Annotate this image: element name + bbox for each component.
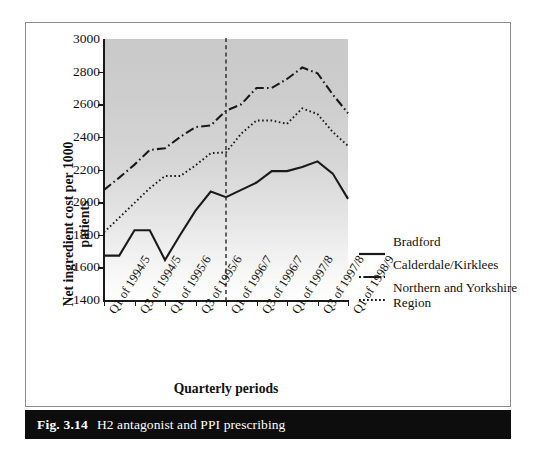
figure-caption-text: H2 antagonist and PPI prescribing — [97, 417, 286, 433]
y-tick-mark — [98, 104, 104, 105]
legend-label: Calderdale/Kirklees — [393, 257, 531, 272]
legend-label: Northern and Yorkshire Region — [393, 280, 531, 310]
y-tick-label: 3000 — [54, 32, 100, 46]
legend-item: Calderdale/Kirklees — [359, 257, 531, 274]
figure-number: Fig. 3.14 — [37, 417, 88, 433]
legend-label: Bradford — [393, 234, 531, 249]
y-tick-mark — [98, 235, 104, 236]
y-tick-mark — [98, 267, 104, 268]
y-tick-mark — [98, 170, 104, 171]
figure-root: 140016001800200022002400260028003000 Net… — [0, 0, 537, 457]
legend-swatch-dotted-icon — [359, 288, 385, 291]
legend-swatch-solid-icon — [359, 242, 385, 245]
y-axis-title-wrapper: Net ingredient cost per 1000 patients — [38, 58, 58, 278]
y-tick-mark — [98, 137, 104, 138]
y-tick-label: 2800 — [54, 65, 100, 79]
chart-plot-region: 140016001800200022002400260028003000 Net… — [0, 0, 537, 407]
figure-caption-bar: Fig. 3.14 H2 antagonist and PPI prescrib… — [25, 410, 511, 439]
legend-item: Bradford — [359, 234, 531, 251]
y-tick-mark — [98, 202, 104, 203]
chart-legend: BradfordCalderdale/KirkleesNorthern and … — [359, 234, 531, 316]
legend-swatch-dash-dot-icon — [359, 265, 385, 268]
y-axis-title: Net ingredient cost per 1000 patients — [61, 119, 93, 329]
legend-item: Northern and Yorkshire Region — [359, 280, 531, 310]
x-axis-title: Quarterly periods — [104, 381, 348, 397]
y-tick-label: 2600 — [54, 97, 100, 111]
y-tick-mark — [98, 72, 104, 73]
